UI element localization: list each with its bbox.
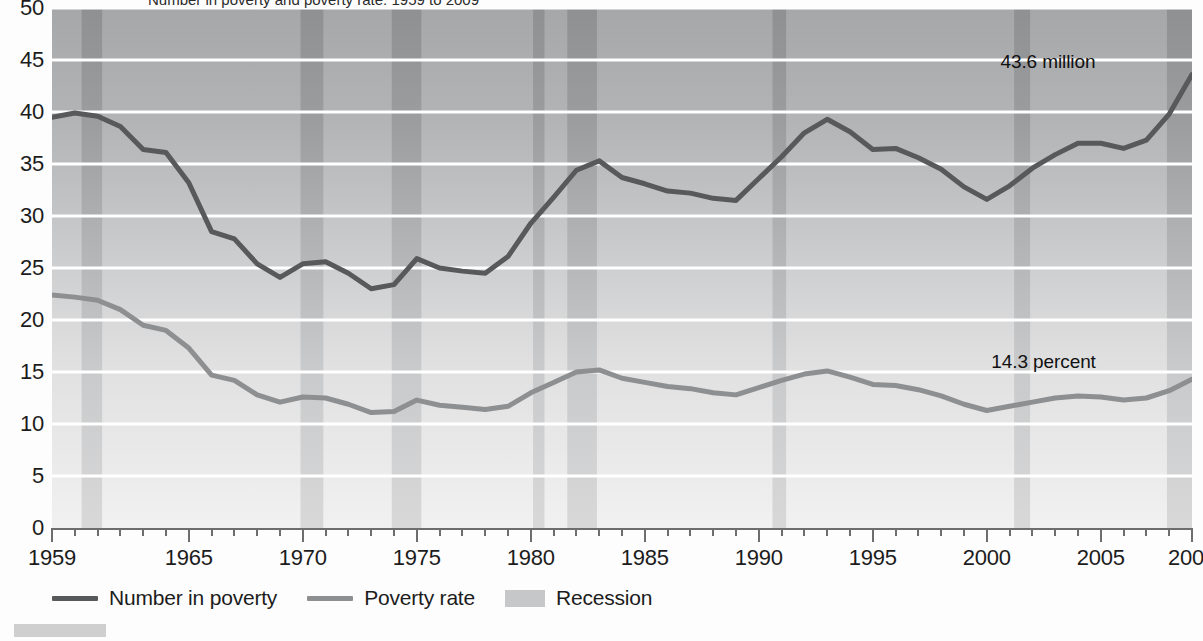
x-axis-minor-tick bbox=[667, 528, 669, 536]
x-axis-minor-tick bbox=[803, 528, 805, 536]
x-axis-minor-tick bbox=[325, 528, 327, 536]
y-axis-tick-35: 35 bbox=[0, 151, 44, 177]
x-axis-tick-1985: 1985 bbox=[621, 545, 669, 571]
x-axis-minor-tick bbox=[781, 528, 783, 536]
y-axis-tick-50: 50 bbox=[0, 0, 44, 21]
x-axis-major-tick bbox=[986, 528, 988, 542]
x-axis-minor-tick bbox=[439, 528, 441, 536]
legend-line-swatch-icon bbox=[307, 596, 353, 601]
x-axis-major-tick bbox=[758, 528, 760, 542]
y-axis-tick-0: 0 bbox=[0, 515, 44, 541]
x-axis-minor-tick bbox=[1031, 528, 1033, 536]
x-axis-minor-tick bbox=[370, 528, 372, 536]
x-axis-minor-tick bbox=[712, 528, 714, 536]
footer-marker bbox=[14, 624, 106, 637]
x-axis-minor-tick bbox=[393, 528, 395, 536]
x-axis-minor-tick bbox=[1054, 528, 1056, 536]
chart-title: Number in poverty and poverty rate: 1959… bbox=[148, 0, 479, 8]
x-axis-minor-tick bbox=[598, 528, 600, 536]
legend-label: Recession bbox=[556, 586, 652, 610]
legend-item-number-in-poverty[interactable]: Number in poverty bbox=[52, 586, 277, 610]
chart-legend: Number in povertyPoverty rateRecession bbox=[52, 583, 682, 613]
x-axis-tick-1959: 1959 bbox=[28, 545, 76, 571]
x-axis-minor-tick bbox=[735, 528, 737, 536]
x-axis-major-tick bbox=[872, 528, 874, 542]
y-axis-tick-45: 45 bbox=[0, 47, 44, 73]
x-axis-minor-tick bbox=[165, 528, 167, 536]
x-axis-minor-tick bbox=[963, 528, 965, 536]
x-axis-tick-1965: 1965 bbox=[165, 545, 213, 571]
x-axis-tick-1970: 1970 bbox=[279, 545, 327, 571]
y-axis-tick-10: 10 bbox=[0, 411, 44, 437]
x-axis-tick-1995: 1995 bbox=[849, 545, 897, 571]
x-axis-major-tick bbox=[416, 528, 418, 542]
x-axis-minor-tick bbox=[826, 528, 828, 536]
x-axis-major-tick bbox=[1191, 528, 1193, 542]
x-axis-minor-tick bbox=[461, 528, 463, 536]
x-axis-minor-tick bbox=[279, 528, 281, 536]
chart-title-strip: Number in poverty and poverty rate: 1959… bbox=[0, 0, 1203, 8]
x-axis-tick-2005: 2005 bbox=[1077, 545, 1125, 571]
x-axis-minor-tick bbox=[1145, 528, 1147, 536]
poverty-chart-figure: Number in poverty and poverty rate: 1959… bbox=[0, 0, 1203, 641]
x-axis-minor-tick bbox=[689, 528, 691, 536]
legend-label: Number in poverty bbox=[109, 586, 277, 610]
x-axis-minor-tick bbox=[575, 528, 577, 536]
x-axis: 1959196519701975198019851990199520002005… bbox=[52, 528, 1192, 580]
x-axis-major-tick bbox=[530, 528, 532, 542]
y-axis-tick-30: 30 bbox=[0, 203, 44, 229]
x-axis-minor-tick bbox=[849, 528, 851, 536]
legend-item-recession[interactable]: Recession bbox=[505, 586, 652, 610]
x-axis-minor-tick bbox=[484, 528, 486, 536]
x-axis-minor-tick bbox=[1077, 528, 1079, 536]
legend-line-swatch-icon bbox=[52, 596, 98, 601]
legend-item-poverty-rate[interactable]: Poverty rate bbox=[307, 586, 475, 610]
x-axis-minor-tick bbox=[74, 528, 76, 536]
x-axis-major-tick bbox=[1100, 528, 1102, 542]
x-axis-minor-tick bbox=[211, 528, 213, 536]
x-axis-tick-1990: 1990 bbox=[735, 545, 783, 571]
y-axis-tick-20: 20 bbox=[0, 307, 44, 333]
y-axis-tick-40: 40 bbox=[0, 99, 44, 125]
x-axis-minor-tick bbox=[553, 528, 555, 536]
x-axis-tick-1980: 1980 bbox=[507, 545, 555, 571]
x-axis-minor-tick bbox=[507, 528, 509, 536]
x-axis-minor-tick bbox=[895, 528, 897, 536]
x-axis-minor-tick bbox=[256, 528, 258, 536]
x-axis-major-tick bbox=[302, 528, 304, 542]
x-axis-major-tick bbox=[188, 528, 190, 542]
x-axis-minor-tick bbox=[917, 528, 919, 536]
y-axis-tick-15: 15 bbox=[0, 359, 44, 385]
legend-band-swatch-icon bbox=[505, 590, 545, 607]
x-axis-minor-tick bbox=[233, 528, 235, 536]
y-axis-tick-5: 5 bbox=[0, 463, 44, 489]
x-axis-tick-1975: 1975 bbox=[393, 545, 441, 571]
x-axis-minor-tick bbox=[119, 528, 121, 536]
poverty-rate-annotation: 14.3 percent bbox=[991, 351, 1095, 373]
x-axis-major-tick bbox=[644, 528, 646, 542]
x-axis-minor-tick bbox=[940, 528, 942, 536]
y-axis-tick-25: 25 bbox=[0, 255, 44, 281]
x-axis-minor-tick bbox=[97, 528, 99, 536]
number-in-poverty-annotation: 43.6 million bbox=[1000, 51, 1095, 73]
x-axis-tick-2000: 2000 bbox=[963, 545, 1011, 571]
x-axis-minor-tick bbox=[1009, 528, 1011, 536]
x-axis-minor-tick bbox=[142, 528, 144, 536]
plot-area: 43.6 million 14.3 percent bbox=[52, 8, 1192, 528]
legend-label: Poverty rate bbox=[364, 586, 475, 610]
x-axis-minor-tick bbox=[347, 528, 349, 536]
x-axis-major-tick bbox=[51, 528, 53, 542]
chart-canvas bbox=[52, 8, 1192, 528]
x-axis-tick-2009: 2009 bbox=[1168, 545, 1203, 571]
x-axis-minor-tick bbox=[1168, 528, 1170, 536]
x-axis-minor-tick bbox=[621, 528, 623, 536]
x-axis-minor-tick bbox=[1123, 528, 1125, 536]
